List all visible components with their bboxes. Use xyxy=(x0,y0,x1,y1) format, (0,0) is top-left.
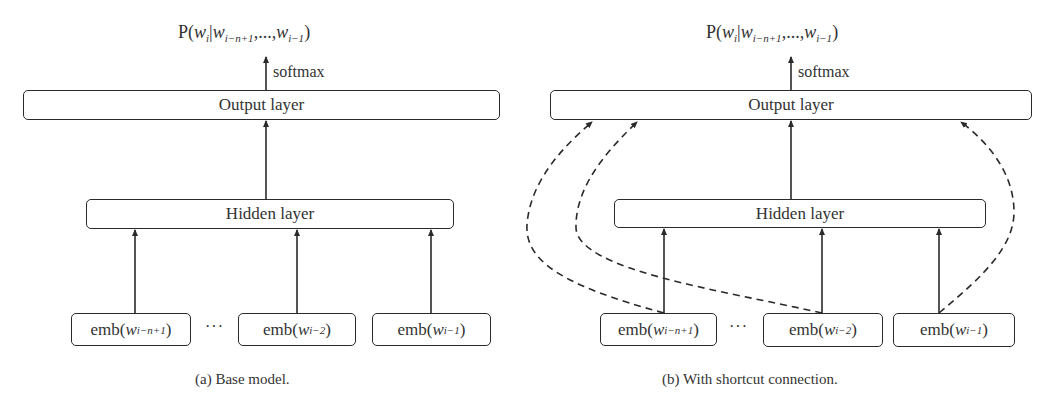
embedding-box: emb(wi−n+1) xyxy=(600,313,717,346)
output-probability-label: P(wi|wi−n+1,...,wi−1) xyxy=(706,22,838,44)
embedding-box: emb(wi−2) xyxy=(238,313,356,346)
embedding-box: emb(wi−1) xyxy=(372,313,491,346)
softmax-label: softmax xyxy=(273,63,325,81)
embedding-box: emb(wi−2) xyxy=(763,313,883,347)
embedding-box: emb(wi−1) xyxy=(893,313,1015,347)
ellipsis: ··· xyxy=(205,318,224,336)
softmax-label: softmax xyxy=(798,63,850,81)
figure-caption: (b) With shortcut connection. xyxy=(662,371,838,388)
figure-caption: (a) Base model. xyxy=(195,371,290,388)
hidden-layer-label: Hidden layer xyxy=(226,204,314,224)
output-layer-label: Output layer xyxy=(219,95,304,115)
hidden-layer-label: Hidden layer xyxy=(756,204,844,224)
hidden-layer-box: Hidden layer xyxy=(86,199,454,229)
output-layer-box: Output layer xyxy=(550,90,1032,120)
ellipsis: ··· xyxy=(729,318,748,336)
hidden-layer-box: Hidden layer xyxy=(614,199,986,228)
output-layer-label: Output layer xyxy=(748,95,833,115)
embedding-box: emb(wi−n+1) xyxy=(71,313,191,346)
output-probability-label: P(wi|wi−n+1,...,wi−1) xyxy=(178,22,310,44)
output-layer-box: Output layer xyxy=(23,90,500,120)
